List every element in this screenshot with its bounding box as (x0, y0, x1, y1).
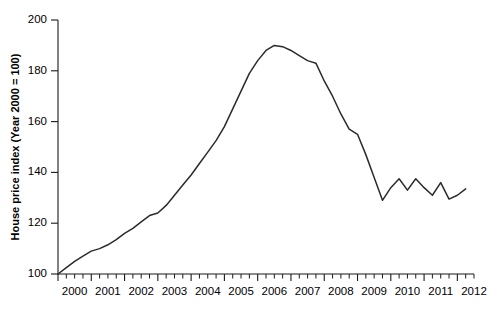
y-tick-label: 120 (28, 216, 47, 228)
y-tick-label: 180 (28, 64, 47, 76)
chart-canvas: 100120140160180200 200020012002200320042… (0, 0, 500, 318)
x-tick-label: 2001 (95, 285, 121, 297)
x-tick-label: 2002 (128, 285, 154, 297)
y-axis-tick-labels: 100120140160180200 (28, 13, 47, 279)
series-line-house-price-index (58, 45, 466, 274)
x-tick-label: 2005 (228, 285, 254, 297)
x-tick-label: 2006 (262, 285, 288, 297)
x-tick-label: 2008 (328, 285, 354, 297)
x-axis-group: 2000200120022003200420052006200720082009… (58, 274, 487, 297)
y-tick-label: 100 (28, 267, 47, 279)
x-tick-label: 2007 (295, 285, 321, 297)
x-axis-major-ticks (58, 274, 457, 281)
x-tick-label: 2011 (428, 285, 453, 297)
x-tick-label: 2003 (162, 285, 188, 297)
y-axis-group: 100120140160180200 (28, 13, 58, 279)
y-tick-label: 200 (28, 13, 47, 25)
x-tick-label: 2009 (361, 285, 387, 297)
y-tick-label: 140 (28, 165, 47, 177)
y-tick-label: 160 (28, 115, 47, 127)
x-tick-label: 2010 (395, 285, 421, 297)
plot-area (58, 45, 466, 274)
y-axis-title: House price index (Year 2000 = 100) (9, 53, 21, 240)
x-tick-label: 2004 (195, 285, 221, 297)
x-axis-tick-labels: 2000200120022003200420052006200720082009… (62, 285, 487, 297)
x-tick-label: 2000 (62, 285, 88, 297)
house-price-index-chart: 100120140160180200 200020012002200320042… (0, 0, 500, 318)
x-axis-minor-ticks (66, 274, 474, 279)
x-tick-label: 2012 (461, 285, 487, 297)
y-axis-ticks (51, 20, 58, 274)
